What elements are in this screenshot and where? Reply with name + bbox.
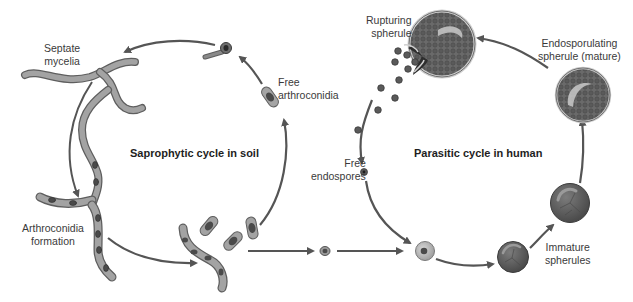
endospore-cell (416, 242, 435, 261)
label-rupturing-spherule: Rupturing spherule (366, 14, 412, 39)
arrow-to-immature-spherule (436, 259, 493, 266)
saprophytic-cycle-title: Saprophytic cycle in soil (130, 147, 259, 159)
arthroconidia-cluster (182, 214, 259, 288)
inhaled-arthroconidium (320, 247, 330, 256)
parasitic-cycle-title: Parasitic cycle in human (414, 147, 542, 159)
immature-spherule-large (551, 184, 590, 223)
label-arthroconidia-formation: Arthroconidia formation (22, 222, 84, 247)
arrow-to-germinating-spore (240, 57, 262, 84)
endosporulating-spherule (556, 68, 610, 122)
arrow-to-converted-cell (366, 181, 410, 243)
label-free-arthroconidia: Free arthroconidia (278, 76, 339, 101)
label-free-endospores: Free endospores (311, 157, 366, 182)
septate-mycelia (25, 62, 142, 205)
arrow-to-free-endospores (360, 100, 372, 163)
label-immature-spherules: Immature spherules (545, 241, 591, 266)
arrow-to-mature-spherule (580, 120, 583, 183)
arrow-to-mycelia (125, 41, 215, 52)
saprophytic-cycle (25, 41, 286, 288)
label-endosporulating-spherule: Endosporulating spherule (mature) (538, 37, 621, 62)
label-septate-mycelia: Septate mycelia (44, 42, 80, 67)
arrow-to-free-arthroconidia (260, 120, 286, 225)
immature-spherule-small (498, 242, 529, 273)
rupturing-spherule (404, 11, 475, 77)
